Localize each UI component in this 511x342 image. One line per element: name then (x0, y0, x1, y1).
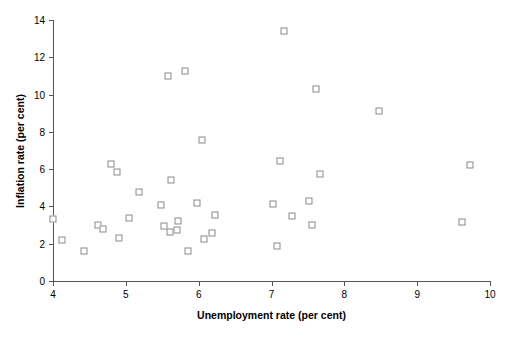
y-tick-label: 6 (39, 164, 45, 175)
data-point (208, 230, 215, 237)
data-point (157, 201, 164, 208)
y-tick (49, 244, 54, 245)
x-tick-label: 9 (414, 289, 420, 300)
data-point (184, 248, 191, 255)
data-point (166, 228, 173, 235)
data-point (280, 28, 287, 35)
data-point (115, 235, 122, 242)
data-point (375, 108, 382, 115)
y-tick (49, 206, 54, 207)
y-tick (49, 132, 54, 133)
x-tick (490, 281, 491, 286)
data-point (194, 199, 201, 206)
data-point (99, 225, 106, 232)
data-point (181, 68, 188, 75)
data-point (316, 170, 323, 177)
data-point (50, 215, 57, 222)
data-point (199, 137, 206, 144)
data-point (288, 212, 295, 219)
x-tick (199, 281, 200, 286)
x-tick-label: 7 (269, 289, 275, 300)
y-tick (49, 57, 54, 58)
y-tick-label: 10 (34, 89, 45, 100)
data-point (135, 189, 142, 196)
data-point (167, 177, 174, 184)
y-tick (49, 20, 54, 21)
data-point (274, 242, 281, 249)
data-point (312, 85, 319, 92)
y-tick (49, 95, 54, 96)
y-tick-label: 0 (39, 276, 45, 287)
y-axis-title: Inflation rate (per cent) (14, 94, 26, 208)
data-point (277, 157, 284, 164)
data-point (211, 211, 218, 218)
data-point (306, 197, 313, 204)
x-axis-title: Unemployment rate (per cent) (197, 309, 346, 321)
data-point (80, 248, 87, 255)
y-axis-line (53, 20, 54, 281)
x-tick (126, 281, 127, 286)
data-point (269, 200, 276, 207)
y-tick-label: 8 (39, 126, 45, 137)
x-tick-label: 6 (196, 289, 202, 300)
data-point (165, 72, 172, 79)
data-point (466, 162, 473, 169)
y-tick (49, 169, 54, 170)
x-tick-label: 5 (123, 289, 129, 300)
data-point (58, 236, 65, 243)
data-point (201, 236, 208, 243)
data-point (114, 168, 121, 175)
y-tick-label: 12 (34, 52, 45, 63)
x-tick (417, 281, 418, 286)
y-tick-label: 2 (39, 238, 45, 249)
y-tick (49, 281, 54, 282)
x-tick (344, 281, 345, 286)
data-point (173, 226, 180, 233)
x-tick-label: 10 (484, 289, 495, 300)
data-point (175, 218, 182, 225)
y-tick-label: 14 (34, 15, 45, 26)
scatter-chart: 4567891002468101214Unemployment rate (pe… (0, 0, 511, 342)
x-tick-label: 4 (50, 289, 56, 300)
data-point (126, 214, 133, 221)
x-tick-label: 8 (342, 289, 348, 300)
data-point (108, 160, 115, 167)
data-point (308, 222, 315, 229)
x-tick (272, 281, 273, 286)
y-tick-label: 4 (39, 201, 45, 212)
data-point (459, 219, 466, 226)
